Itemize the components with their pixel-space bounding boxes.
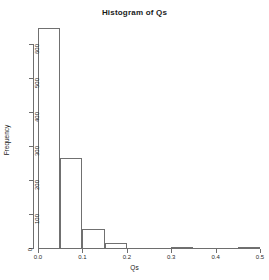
x-tick-label: 0.3 (167, 254, 175, 260)
x-tick-mark (127, 249, 128, 253)
histogram-bar (38, 28, 60, 248)
y-tick-label: 0 (27, 248, 33, 251)
y-tick-mark (29, 44, 33, 45)
y-axis-label: Frequency (3, 125, 10, 156)
x-tick-mark (260, 249, 261, 253)
x-tick-label: 0.0 (34, 254, 42, 260)
histogram-bar (60, 158, 82, 248)
x-axis-line (38, 248, 260, 249)
y-tick-mark (29, 112, 33, 113)
plot-data-area (38, 20, 260, 248)
x-tick-mark (171, 249, 172, 253)
x-tick-label: 0.4 (211, 254, 219, 260)
y-tick-label: 200 (34, 180, 40, 190)
y-tick-mark (29, 214, 33, 215)
y-tick-label: 500 (34, 78, 40, 88)
histogram-plot: Histogram of Qs 0.00.10.20.30.40.5 01002… (0, 0, 269, 280)
y-tick-mark (29, 180, 33, 181)
y-tick-label: 100 (34, 214, 40, 224)
x-tick-mark (82, 249, 83, 253)
histogram-bar (82, 229, 104, 248)
y-tick-label: 300 (34, 146, 40, 156)
x-tick-label: 0.2 (123, 254, 131, 260)
y-tick-mark (29, 78, 33, 79)
x-tick-mark (216, 249, 217, 253)
y-tick-mark (29, 146, 33, 147)
x-tick-label: 0.1 (78, 254, 86, 260)
y-tick-label: 400 (34, 112, 40, 122)
x-tick-label: 0.5 (256, 254, 264, 260)
y-tick-label: 600 (34, 44, 40, 54)
x-tick-mark (38, 249, 39, 253)
chart-title: Histogram of Qs (0, 8, 269, 17)
x-axis-label: Qs (0, 264, 269, 271)
